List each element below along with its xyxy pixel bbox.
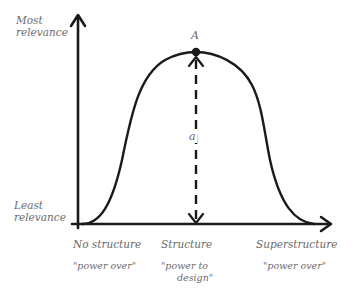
x-category-label: Superstructure	[256, 238, 337, 250]
peak-point-marker	[192, 48, 200, 56]
peak-point-label: A	[191, 30, 199, 42]
y-axis-bottom-label: Least relevance	[14, 199, 66, 223]
y-axis-top-label: Most relevance	[16, 14, 68, 38]
y-axis-bottom-label-line1: Least	[14, 199, 66, 211]
x-category-sublabel: "power over"	[256, 260, 337, 272]
y-axis-top-label-line1: Most	[16, 14, 68, 26]
height-marker-label: a	[188, 131, 197, 143]
relevance-curve	[82, 52, 314, 224]
x-category-label: No structure	[73, 238, 141, 250]
y-axis-top-label-line2: relevance	[16, 26, 68, 38]
y-axis-bottom-label-line2: relevance	[14, 211, 66, 223]
x-category-sublabel: "power over"	[73, 260, 141, 272]
x-category-structure: Structure "power to design"	[161, 238, 213, 284]
x-category-no-structure: No structure "power over"	[73, 238, 141, 272]
x-category-sublabel: "power to	[161, 260, 213, 272]
x-category-label: Structure	[161, 238, 213, 250]
x-category-superstructure: Superstructure "power over"	[256, 238, 337, 272]
x-category-sublabel-line2: design"	[161, 272, 213, 284]
